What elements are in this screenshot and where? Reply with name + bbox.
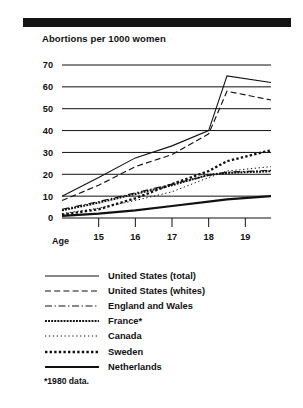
data-series-group	[62, 76, 271, 216]
series-line	[62, 196, 271, 216]
x-axis-ticks	[99, 218, 246, 227]
legend-item-label: Canada	[108, 331, 142, 341]
legend-swatch-icon	[44, 285, 100, 297]
series-line	[62, 150, 271, 214]
legend-item: United States (total)	[44, 268, 274, 283]
y-tick-label: 0	[48, 213, 53, 223]
legend-item-label: United States (total)	[108, 271, 196, 281]
chart-footnote: *1980 data.	[44, 376, 89, 386]
legend-swatch-icon	[44, 346, 100, 358]
legend-item: Sweden	[44, 344, 274, 359]
series-line	[62, 171, 271, 210]
y-tick-label: 40	[43, 126, 53, 136]
y-tick-label: 10	[43, 192, 53, 202]
figure-panel: Abortions per 1000 women 010203040506070…	[0, 0, 303, 408]
y-tick-label: 20	[43, 170, 53, 180]
legend-item-label: Netherlands	[108, 362, 162, 372]
x-tick-label: 17	[167, 232, 177, 242]
legend-item-label: Sweden	[108, 347, 143, 357]
legend-item: Netherlands	[44, 359, 274, 374]
x-tick-label: 16	[130, 232, 140, 242]
legend-item-label: England and Wales	[108, 301, 193, 311]
legend-item-label: France*	[108, 316, 142, 326]
legend-swatch-icon	[44, 315, 100, 327]
chart-legend: United States (total)United States (whit…	[44, 268, 274, 374]
legend-swatch-icon	[44, 270, 100, 282]
y-tick-label: 30	[43, 148, 53, 158]
x-tick-label: 19	[240, 232, 250, 242]
legend-item: England and Wales	[44, 298, 274, 313]
x-axis-tick-labels: 1516171819	[94, 232, 251, 242]
y-tick-label: 50	[43, 104, 53, 114]
legend-swatch-icon	[44, 361, 100, 373]
x-tick-label: 18	[204, 232, 214, 242]
y-tick-label: 60	[43, 82, 53, 92]
gridlines-group	[62, 65, 271, 218]
legend-item-label: United States (whites)	[108, 286, 205, 296]
x-tick-label: 15	[94, 232, 104, 242]
x-axis-title: Age	[52, 236, 69, 246]
series-line	[62, 91, 271, 200]
legend-item: Canada	[44, 329, 274, 344]
legend-item: France*	[44, 314, 274, 329]
legend-item: United States (whites)	[44, 283, 274, 298]
y-tick-label: 70	[43, 60, 53, 70]
legend-swatch-icon	[44, 300, 100, 312]
y-axis-tick-labels: 010203040506070	[43, 60, 53, 223]
legend-swatch-icon	[44, 330, 100, 342]
